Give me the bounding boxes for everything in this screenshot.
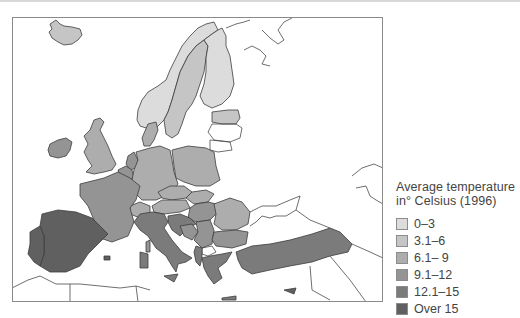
country-ireland: [48, 138, 72, 158]
legend-item: 12.1–15: [396, 284, 520, 300]
cropped-caption-text: [0, 0, 520, 5]
island-sicily: [164, 274, 178, 282]
legend-title-line2: in° Celsius (1996): [396, 194, 520, 208]
country-bulgaria: [212, 230, 248, 248]
legend-swatch: [396, 303, 408, 315]
legend-swatch: [396, 252, 408, 264]
legend-item: 6.1– 9: [396, 250, 520, 266]
island-crete: [222, 296, 236, 300]
country-estonia: [212, 110, 240, 124]
legend-label: 0–3: [414, 217, 435, 231]
map-svg: [12, 17, 383, 302]
country-serbia: [194, 220, 214, 248]
country-uk: [84, 118, 116, 174]
legend-label: 9.1–12: [414, 268, 452, 282]
legend-label: 3.1–6: [414, 234, 445, 248]
legend-label: 12.1–15: [414, 285, 459, 299]
legend-label: 6.1– 9: [414, 251, 449, 265]
legend-swatch: [396, 269, 408, 281]
legend-items: 0–3 3.1–6 6.1– 9 9.1–12 12.1–15 Over 15: [396, 216, 520, 317]
europe-map: [12, 17, 383, 302]
country-iceland: [49, 20, 82, 45]
country-finland: [200, 28, 234, 108]
country-austria: [152, 200, 190, 214]
legend-item: Over 15: [396, 301, 520, 317]
island-corsica: [146, 240, 150, 252]
island-sardinia: [140, 252, 148, 268]
map-legend: Average temperature in° Celsius (1996) 0…: [396, 180, 520, 318]
legend-swatch: [396, 235, 408, 247]
country-cyprus: [284, 288, 296, 294]
island-balearic: [104, 256, 110, 260]
country-greece: [202, 252, 232, 284]
country-portugal: [28, 226, 44, 266]
legend-item: 3.1–6: [396, 233, 520, 249]
legend-item: 9.1–12: [396, 267, 520, 283]
country-romania: [214, 198, 250, 230]
country-hungary: [188, 202, 218, 222]
legend-swatch: [396, 286, 408, 298]
country-turkey: [236, 228, 352, 274]
legend-label: Over 15: [414, 302, 458, 316]
legend-item: 0–3: [396, 216, 520, 232]
legend-swatch: [396, 218, 408, 230]
country-poland: [172, 146, 220, 186]
legend-title-line1: Average temperature: [396, 180, 520, 194]
legend-title: Average temperature in° Celsius (1996): [396, 180, 520, 208]
country-albania: [194, 246, 202, 266]
